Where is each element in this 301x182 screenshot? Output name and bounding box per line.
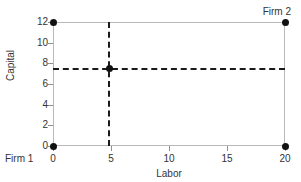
x-tick-5	[111, 146, 112, 151]
y-tick-label-4: 4	[22, 100, 48, 110]
y-tick-label-12: 12	[22, 17, 48, 27]
y-tick-label-6: 6	[22, 79, 48, 89]
x-tick-label-15: 15	[212, 154, 242, 164]
vertical-dashed-reference-line	[108, 22, 110, 146]
y-tick-4	[48, 105, 53, 106]
annotation-firm-1: Firm 1	[5, 154, 33, 164]
x-tick-label-5: 5	[96, 154, 126, 164]
data-point-bottom-right	[282, 143, 289, 150]
data-point-top-right	[282, 19, 289, 26]
x-tick-label-0: 0	[38, 154, 68, 164]
horizontal-dashed-reference-line	[53, 68, 285, 70]
y-tick-label-2: 2	[22, 120, 48, 130]
x-tick-10	[169, 146, 170, 151]
y-tick-label-8: 8	[22, 58, 48, 68]
annotation-firm-2: Firm 2	[263, 6, 291, 17]
x-tick-label-20: 20	[270, 154, 300, 164]
y-axis-title: Capital	[5, 31, 16, 101]
y-tick-8	[48, 63, 53, 64]
y-tick-label-0: 0	[22, 141, 48, 151]
y-tick-10	[48, 43, 53, 44]
x-axis-title: Labor	[53, 168, 285, 179]
plot-area-box	[53, 22, 285, 146]
edgeworth-box-chart: 12 10 8 6 4 2 0 0 5 10 15 20 Labor Capit…	[0, 0, 301, 182]
y-tick-2	[48, 125, 53, 126]
data-point-top-left	[50, 19, 57, 26]
x-tick-15	[227, 146, 228, 151]
data-point-bottom-left	[50, 143, 57, 150]
y-tick-6	[48, 84, 53, 85]
x-tick-label-10: 10	[154, 154, 184, 164]
y-tick-label-10: 10	[22, 38, 48, 48]
data-point-allocation	[106, 65, 113, 72]
